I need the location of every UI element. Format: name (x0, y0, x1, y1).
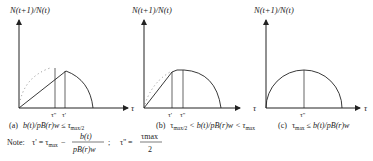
note-label: Note: (7, 138, 25, 147)
caption-b: (b) τmax/2 < b(t)/pB(r)w < τmax (156, 121, 255, 131)
tick-c-0: τ'' (300, 111, 305, 119)
x-axis-label-a: τ (131, 103, 135, 113)
linear-segment-a (19, 71, 66, 108)
tick-b-0: τ' (168, 111, 172, 119)
arc-a (66, 71, 93, 108)
y-axis-label-a: N(t+1)/N(t) (9, 5, 50, 15)
x-axis-label-b: τ (253, 103, 257, 113)
figure-canvas: N(t+1)/N(t) τ'' τ' (a) b(t)/pB(r)w ≤ τma… (0, 0, 373, 161)
frac2-den: 2 (148, 145, 152, 154)
dotted-curve-a (19, 68, 50, 108)
arc-b (172, 70, 221, 108)
frac-num: b(t) (80, 132, 92, 141)
caption-a: (a) b(t)/pB(r)w ≤ τmax/2 (9, 121, 85, 131)
panel-b: N(t+1)/N(t) τ τ' τ'' (b) τmax/2 < b(t)/p… (131, 5, 255, 131)
caption-c: (c) τmax ≤ b(t)/pB(r)w (278, 121, 350, 131)
separator: ; (108, 138, 110, 147)
panel-c: N(t+1)/N(t) τ τ τ'' (c) τmax ≤ b(t)/pB(r… (253, 5, 368, 131)
tau-dprime-def: τ'' = (120, 138, 133, 147)
tau-prime-def: τ' = τmax− (32, 138, 66, 148)
tick-a-1: τ' (62, 111, 66, 119)
frac2-num: τmax (141, 132, 158, 141)
frac-den: pB(r)w (72, 145, 96, 154)
tick-a-0: τ'' (51, 111, 56, 119)
y-axis-label-c: N(t+1)/N(t) (253, 5, 294, 15)
x-axis-label-c: τ (364, 103, 368, 113)
tick-b-1: τ'' (180, 111, 185, 119)
y-axis-label-b: N(t+1)/N(t) (131, 5, 172, 15)
note: Note: τ' = τmax− b(t) pB(r)w ; τ'' = τma… (7, 132, 162, 154)
panel-a: N(t+1)/N(t) τ'' τ' (a) b(t)/pB(r)w ≤ τma… (9, 5, 128, 131)
linear-segment-b (144, 72, 172, 108)
